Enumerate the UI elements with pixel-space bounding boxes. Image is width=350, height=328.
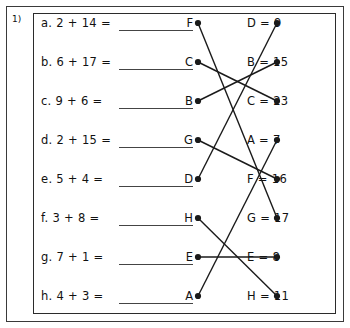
answer-key-entry: A = 7 xyxy=(247,133,281,147)
answer-letter: F xyxy=(173,16,193,30)
answer-letter: H xyxy=(173,211,193,225)
answer-key-entry: G = 17 xyxy=(247,211,289,225)
exercise-row: f. 3 + 8 =HG = 17 xyxy=(33,208,336,228)
problem-expression: a. 2 + 14 = xyxy=(41,16,111,30)
answer-key-entry: F = 16 xyxy=(247,172,287,186)
answer-blank[interactable] xyxy=(119,186,193,187)
exercise-row: b. 6 + 17 =CB = 15 xyxy=(33,52,336,72)
answer-key-entry: H = 11 xyxy=(247,289,289,303)
exercise-row: h. 4 + 3 =AH = 11 xyxy=(33,286,336,306)
answer-blank[interactable] xyxy=(119,225,193,226)
answer-key-entry: C = 23 xyxy=(247,94,288,108)
answer-blank[interactable] xyxy=(119,69,193,70)
answer-blank[interactable] xyxy=(119,30,193,31)
exercise-row: d. 2 + 15 =GA = 7 xyxy=(33,130,336,150)
answer-letter: B xyxy=(173,94,193,108)
worksheet-page: 1) a. 2 + 14 =FD = 9b. 6 + 17 =CB = 15c.… xyxy=(0,0,350,328)
answer-key-entry: B = 15 xyxy=(247,55,288,69)
answer-blank[interactable] xyxy=(119,264,193,265)
exercise-row: g. 7 + 1 =EE = 8 xyxy=(33,247,336,267)
answer-letter: C xyxy=(173,55,193,69)
answer-blank[interactable] xyxy=(119,303,193,304)
answer-letter: G xyxy=(173,133,193,147)
answer-letter: E xyxy=(173,250,193,264)
problem-expression: d. 2 + 15 = xyxy=(41,133,111,147)
problem-expression: e. 5 + 4 = xyxy=(41,172,103,186)
answer-key-entry: D = 9 xyxy=(247,16,282,30)
answer-letter: D xyxy=(173,172,193,186)
problem-expression: g. 7 + 1 = xyxy=(41,250,103,264)
exercise-rows: a. 2 + 14 =FD = 9b. 6 + 17 =CB = 15c. 9 … xyxy=(33,13,336,314)
problem-expression: c. 9 + 6 = xyxy=(41,94,103,108)
exercise-row: e. 5 + 4 =DF = 16 xyxy=(33,169,336,189)
problem-expression: b. 6 + 17 = xyxy=(41,55,111,69)
answer-blank[interactable] xyxy=(119,108,193,109)
problem-expression: f. 3 + 8 = xyxy=(41,211,99,225)
exercise-row: a. 2 + 14 =FD = 9 xyxy=(33,13,336,33)
answer-key-entry: E = 8 xyxy=(247,250,280,264)
exercise-row: c. 9 + 6 =BC = 23 xyxy=(33,91,336,111)
answer-letter: A xyxy=(173,289,193,303)
question-number: 1) xyxy=(12,14,21,24)
answer-blank[interactable] xyxy=(119,147,193,148)
problem-expression: h. 4 + 3 = xyxy=(41,289,103,303)
